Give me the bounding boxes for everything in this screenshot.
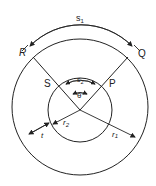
label-r: R: [19, 47, 26, 58]
label-s2: s2: [77, 76, 84, 85]
label-r2: r2: [63, 118, 70, 128]
s1-arc-arrow-back: [30, 25, 132, 46]
label-p: P: [109, 78, 116, 89]
radial-line-rs: [33, 57, 80, 110]
s1-arc-arrow: [30, 25, 132, 46]
label-theta: θ: [77, 91, 82, 100]
radial-line-qp: [80, 57, 128, 110]
r1-arrow: [80, 110, 135, 137]
label-s1: s1: [76, 13, 85, 24]
label-t: t: [41, 131, 44, 140]
arc-length-diagram: s1 R Q S P s2 θ r2 t r1: [0, 0, 156, 186]
label-r1: r1: [112, 130, 118, 139]
label-s: S: [44, 78, 51, 89]
outer-circle: [12, 39, 148, 175]
label-q: Q: [138, 48, 146, 59]
